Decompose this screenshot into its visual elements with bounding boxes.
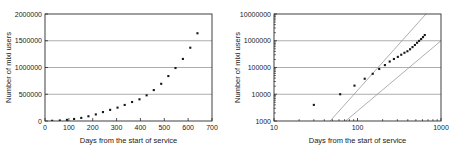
y-tick-label: 1500000 — [15, 37, 42, 44]
data-point — [138, 98, 140, 100]
x-tick-label: 10 — [270, 124, 278, 131]
data-series-group — [313, 34, 426, 106]
y-tick-label: 10000000 — [240, 11, 271, 18]
data-point — [131, 101, 133, 103]
data-point — [313, 104, 315, 106]
y-tick-label: 2000000 — [15, 11, 42, 18]
data-point — [364, 78, 366, 80]
x-tick-label: 0 — [43, 124, 47, 131]
data-point — [353, 85, 355, 87]
data-point — [414, 44, 416, 46]
x-tick-label: 400 — [135, 124, 147, 131]
data-point — [182, 58, 184, 60]
y-tick-label: 1000000 — [15, 64, 42, 71]
data-point — [372, 73, 374, 75]
data-point — [420, 38, 422, 40]
x-tick-label: 500 — [158, 124, 170, 131]
data-point — [339, 93, 341, 95]
y-tick-label: 0 — [38, 118, 42, 125]
chart-panel-linear: 0500000100000015000002000000010020030040… — [0, 0, 229, 151]
data-point — [160, 83, 162, 85]
data-point — [416, 42, 418, 44]
y-axis-title: Number of mixi users — [4, 32, 13, 103]
data-point — [418, 40, 420, 42]
data-point — [406, 50, 408, 52]
data-point — [393, 58, 395, 60]
data-point — [116, 107, 118, 109]
chart-panel-loglog: 100010000100000100000010000000101001000D… — [229, 0, 458, 151]
lower-guide-line — [346, 41, 441, 121]
data-point — [189, 47, 191, 49]
x-axis-title: Days from the start of service — [309, 136, 407, 145]
data-point — [124, 104, 126, 106]
figure-two-panel-mixi-growth: 0500000100000015000002000000010020030040… — [0, 0, 459, 151]
data-point — [378, 68, 380, 70]
x-tick-label: 200 — [87, 124, 99, 131]
x-axis-title: Days from the start of service — [80, 136, 178, 145]
data-point — [424, 34, 426, 36]
loglog-scatter-plot: 100010000100000100000010000000101001000D… — [229, 0, 458, 151]
y-tick-label: 100000 — [248, 64, 271, 71]
x-tick-label: 100 — [352, 124, 364, 131]
y-tick-label: 500000 — [19, 91, 42, 98]
data-point — [80, 117, 82, 119]
data-point — [409, 48, 411, 50]
data-point — [400, 54, 402, 56]
data-point — [174, 67, 176, 69]
data-series-group — [51, 32, 198, 122]
data-point — [153, 89, 155, 91]
x-tick-label: 700 — [206, 124, 218, 131]
x-tick-label: 300 — [111, 124, 123, 131]
data-point — [384, 64, 386, 66]
x-tick-label: 600 — [182, 124, 194, 131]
data-point — [73, 118, 75, 120]
data-point — [109, 109, 111, 111]
data-point — [411, 46, 413, 48]
data-point — [196, 32, 198, 34]
x-tick-label: 1000 — [433, 124, 449, 131]
data-point — [422, 36, 424, 38]
data-point — [87, 115, 89, 117]
data-point — [102, 111, 104, 113]
data-point — [397, 56, 399, 58]
y-axis-title: Number of mixi users — [233, 32, 242, 103]
data-point — [167, 75, 169, 77]
data-point — [95, 113, 97, 115]
x-tick-label: 100 — [63, 124, 75, 131]
linear-scatter-plot: 0500000100000015000002000000010020030040… — [0, 0, 229, 151]
y-tick-label: 1000000 — [244, 37, 271, 44]
data-point — [403, 52, 405, 54]
y-tick-label: 10000 — [252, 91, 272, 98]
data-point — [146, 94, 148, 96]
y-tick-label: 1000 — [255, 118, 271, 125]
data-point — [389, 60, 391, 62]
